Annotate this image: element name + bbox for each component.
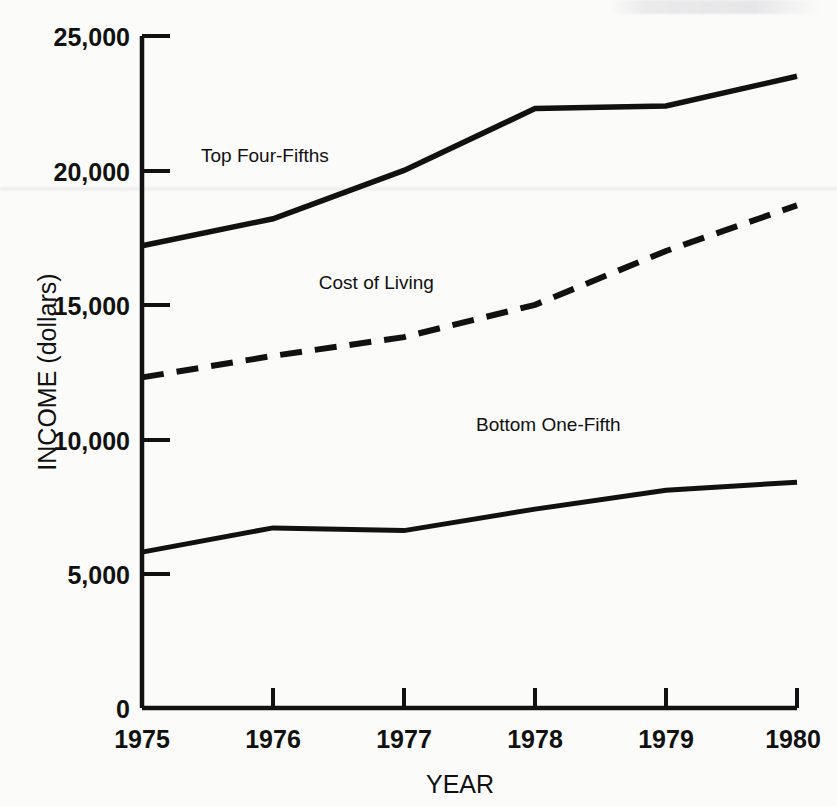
- y-tick-label-25000: 25,000: [54, 23, 130, 51]
- y-axis-title: INCOME (dollars): [33, 273, 61, 470]
- y-axis-ticks: [142, 36, 170, 574]
- x-tick-label-1977: 1977: [376, 725, 432, 753]
- y-tick-label-0: 0: [116, 695, 130, 723]
- series-label-top-four-fifths: Top Four-Fifths: [201, 145, 329, 166]
- y-tick-label-20000: 20,000: [54, 158, 130, 186]
- chart-page: 25,000 20,000 15,000 10,000 5,000 0 1975…: [0, 0, 837, 806]
- y-tick-label-10000: 10,000: [54, 427, 130, 455]
- x-axis-title: YEAR: [426, 770, 494, 798]
- y-tick-label-15000: 15,000: [54, 292, 130, 320]
- x-tick-label-1980: 1980: [765, 725, 821, 753]
- x-axis-ticks: [273, 688, 797, 708]
- income-line-chart: 25,000 20,000 15,000 10,000 5,000 0 1975…: [0, 0, 837, 806]
- series-label-bottom-one-fifth: Bottom One-Fifth: [476, 414, 621, 435]
- y-tick-label-5000: 5,000: [67, 561, 130, 589]
- series-line-bottom-one-fifth: [142, 482, 797, 552]
- x-tick-label-1979: 1979: [638, 725, 694, 753]
- x-tick-label-1976: 1976: [245, 725, 301, 753]
- x-tick-label-1975: 1975: [114, 725, 170, 753]
- series-label-cost-of-living: Cost of Living: [319, 272, 434, 293]
- x-tick-label-1978: 1978: [507, 725, 563, 753]
- series-line-cost-of-living: [142, 205, 797, 377]
